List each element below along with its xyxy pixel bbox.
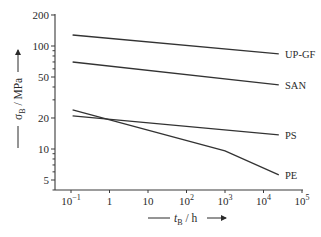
series-line-up-gf <box>73 35 279 54</box>
axes <box>55 14 303 190</box>
x-tick-label: 105 <box>295 193 310 207</box>
y-tick-label: 100 <box>33 40 50 52</box>
series-line-san <box>73 62 279 85</box>
y-tick-label: 5 <box>44 174 50 186</box>
x-ticks: 10−1110102103104105 <box>61 190 309 207</box>
y-tick-label: 20 <box>38 112 50 124</box>
series-label-pe: PE <box>285 170 297 181</box>
x-axis-label-text: tB / h <box>174 212 197 227</box>
x-tick-label: 103 <box>218 193 233 207</box>
series-label-san: SAN <box>285 80 306 91</box>
y-tick-label: 10 <box>38 143 50 155</box>
x-tick-label: 10−1 <box>61 193 81 207</box>
series-label-ps: PS <box>285 130 297 141</box>
x-tick-label: 1 <box>107 195 113 207</box>
x-tick-label: 102 <box>179 193 194 207</box>
x-tick-label: 10 <box>143 195 155 207</box>
x-axis-label: tB / h <box>148 212 226 227</box>
series-line-pe <box>73 110 279 175</box>
creep-strength-plot: 2001005020105 10−1110102103104105 UP-GFS… <box>0 0 321 237</box>
y-ticks: 2001005020105 <box>33 9 56 190</box>
x-tick-label: 104 <box>256 193 271 207</box>
y-axis-label-text: σB / MPa <box>12 78 27 120</box>
series-label-up-gf: UP-GF <box>285 49 316 60</box>
y-tick-label: 50 <box>38 71 50 83</box>
y-axis-label: σB / MPa <box>12 50 27 148</box>
y-tick-label: 200 <box>33 9 50 21</box>
series-lines <box>73 35 279 175</box>
series-labels: UP-GFSANPSPE <box>285 49 316 181</box>
chart: 2001005020105 10−1110102103104105 UP-GFS… <box>0 0 321 237</box>
